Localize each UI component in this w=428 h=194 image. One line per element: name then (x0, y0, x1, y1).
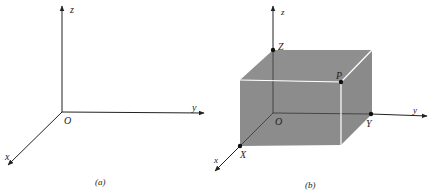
figure-a: z y x O (a) (4, 4, 204, 187)
point-x (238, 144, 242, 148)
point-x-label: X (239, 149, 247, 160)
caption-b: (b) (305, 180, 316, 190)
coordinate-diagram: z y x O (a) z y x Z P Y X O (0, 0, 428, 194)
x-label-b: x (213, 155, 218, 165)
caption-a: (a) (95, 177, 106, 187)
diagram-canvas: z y x O (a) z y x Z P Y X O (0, 0, 428, 194)
x-axis-a (8, 112, 62, 165)
x-axis-b (215, 146, 240, 171)
x-label-a: x (4, 151, 10, 162)
origin-label-a: O (64, 115, 71, 126)
point-z-label: Z (278, 41, 284, 52)
y-axis-a (62, 112, 204, 113)
point-y-label: Y (366, 118, 373, 129)
point-p-label: P (335, 70, 342, 81)
y-axis-b (371, 114, 427, 116)
z-label-a: z (69, 4, 74, 15)
z-label-b: z (280, 7, 285, 17)
point-y (369, 112, 373, 116)
y-label-a: y (191, 102, 197, 113)
figure-b: z y x Z P Y X O (b) (213, 6, 427, 190)
y-label-b: y (412, 105, 417, 115)
point-z (271, 48, 275, 52)
origin-label-b: O (275, 116, 282, 127)
